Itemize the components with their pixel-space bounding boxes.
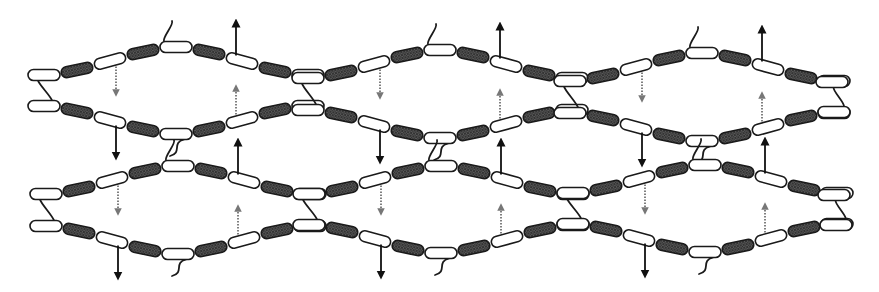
row-2-cell-2-top-chain-segment-white	[358, 170, 392, 189]
row-1-cell-3-top-chain-segment-dark	[718, 49, 752, 66]
row-1-cell-3-bottom-chain-segment-white	[619, 117, 653, 136]
row-1-cell-3-bottom-chain-segment-white	[554, 108, 586, 119]
row-1-cell-3-top-chain-segment-dark	[784, 67, 818, 84]
row-2-end-top-segment-white	[818, 190, 850, 201]
row-2-cell-3-top-chain-segment-dark	[655, 161, 689, 178]
row-1-cell-1-top-chain-segment-white	[160, 42, 192, 53]
row-2-cell-1-top-chain-segment-white	[227, 170, 261, 189]
row-1-cell-3-bottom-chain-segment-white	[686, 136, 718, 147]
row-2-cell-3-top-chain-segment-white	[557, 188, 589, 199]
lattice-diagram	[0, 0, 879, 292]
row-1-cell-3-top-chain-segment-white	[619, 57, 653, 76]
top-tail-icon	[428, 24, 436, 45]
row-1-cell-3-bottom-chain-segment-dark	[784, 109, 818, 126]
row-2-cell-1-bottom-chain-segment-dark	[128, 240, 162, 257]
row-2-cell-2-top-chain-segment-dark	[523, 180, 557, 197]
row-1-cell-3-top-chain-segment-dark	[652, 49, 686, 66]
row-1-cell-1-bottom-chain-segment-dark	[192, 120, 226, 137]
end-connector-tail-icon	[836, 201, 846, 220]
row-1-end-top-segment-white	[816, 77, 848, 88]
row-2-cell-2-bottom-chain-segment-white	[490, 229, 524, 248]
bottom-tail-icon	[172, 260, 186, 277]
row-2-cell-3-bottom-chain-segment-white	[689, 247, 721, 258]
row-2-cell-1-top-chain-segment-dark	[260, 180, 294, 197]
row-2-cell-2-top-chain-segment-dark	[391, 162, 425, 179]
row-1-cell-2-top-chain-segment-dark	[390, 46, 424, 63]
row-2-cell-1-bottom-chain-segment-dark	[62, 222, 96, 239]
row-2-cell-1-bottom-chain-segment-white	[30, 221, 62, 232]
row-1-cell-2-top-chain-segment-white	[292, 73, 324, 84]
row-1-cell-2-bottom-chain-segment-white	[424, 133, 456, 144]
row-2-cell-1-top-chain-segment-dark	[194, 162, 228, 179]
row-1-cell-1-bottom-chain-segment-white	[93, 110, 127, 129]
connector-tail-icon	[38, 81, 52, 101]
row-2-cell-1-bottom-chain-segment-dark	[260, 222, 294, 239]
row-2-cell-3-top-chain-segment-white	[754, 169, 788, 188]
row-2-cell-2-bottom-chain-segment-white	[425, 248, 457, 259]
top-tail-icon	[164, 21, 172, 42]
row-2-cell-3-bottom-chain-segment-white	[754, 228, 788, 247]
connector-tail-icon	[303, 200, 317, 220]
connector-tail-icon	[40, 200, 54, 221]
row-1-cell-1-top-chain-segment-dark	[126, 43, 160, 60]
row-2-cell-3-top-chain-segment-dark	[787, 179, 821, 196]
row-2-cell-3-top-chain-segment-dark	[721, 161, 755, 178]
row-2-cell-3-top-chain-segment-white	[689, 160, 721, 171]
row-2-cell-3-bottom-chain-segment-dark	[787, 220, 821, 237]
row-1-cell-3-top-chain-segment-white	[751, 57, 785, 76]
row-2-cell-1-top-chain-segment-white	[162, 161, 194, 172]
row-2-cell-1-bottom-chain-segment-white	[95, 230, 129, 249]
row-1-cell-1-top-chain-segment-dark	[192, 43, 226, 60]
row-1-cell-2-bottom-chain-segment-dark	[456, 124, 490, 141]
row-1-cell-2-bottom-chain-segment-dark	[522, 106, 556, 123]
row-2-cell-2-bottom-chain-segment-dark	[457, 239, 491, 256]
row-1-cell-1-top-chain-segment-white	[93, 51, 127, 70]
row-1-cell-3-bottom-chain-segment-dark	[652, 127, 686, 144]
top-tail-icon	[690, 27, 698, 48]
row-2-cell-3-bottom-chain-segment-dark	[655, 238, 689, 255]
row-2-cell-3-bottom-chain-segment-dark	[589, 220, 623, 237]
row-1-cell-2-top-chain-segment-dark	[324, 64, 358, 81]
row-2-cell-3-bottom-chain-segment-white	[622, 228, 656, 247]
row-2-cell-1-bottom-chain-segment-dark	[194, 240, 228, 257]
row-1-cell-2-top-chain-segment-white	[489, 54, 523, 73]
row-1-cell-3-top-chain-segment-white	[554, 76, 586, 87]
row-2-cell-2-top-chain-segment-white	[490, 170, 524, 189]
row-2-cell-3-top-chain-segment-dark	[589, 179, 623, 196]
row-2-cell-2-bottom-chain-segment-dark	[325, 221, 359, 238]
bottom-tail-icon	[435, 259, 449, 276]
row-1-end-bottom-segment-white	[818, 107, 850, 118]
row-2-end-bottom-segment-white	[820, 220, 852, 231]
row-1-cell-2-top-chain-segment-white	[424, 45, 456, 56]
row-2-cell-3-bottom-chain-segment-white	[557, 219, 589, 230]
row-2-cell-2-top-chain-segment-dark	[457, 162, 491, 179]
row-2-cell-1-top-chain-segment-dark	[62, 180, 96, 197]
row-2-cell-1-top-chain-segment-dark	[128, 162, 162, 179]
connector-tail-icon	[567, 199, 581, 219]
row-1-cell-1-bottom-chain-segment-white	[28, 101, 60, 112]
row-1-cell-1-bottom-chain-segment-dark	[258, 102, 292, 119]
row-2-cell-3-top-chain-segment-white	[622, 169, 656, 188]
row-1-cell-3-top-chain-segment-dark	[586, 67, 620, 84]
row-2-cell-1-top-chain-segment-white	[95, 170, 129, 189]
row-1-cell-3-bottom-chain-segment-white	[751, 117, 785, 136]
row-1-cell-2-bottom-chain-segment-white	[489, 114, 523, 133]
row-1-cell-3-bottom-chain-segment-dark	[586, 109, 620, 126]
row-2-cell-2-bottom-chain-segment-dark	[523, 221, 557, 238]
row-1-cell-2-bottom-chain-segment-white	[292, 105, 324, 116]
row-1-cell-2-top-chain-segment-dark	[522, 64, 556, 81]
row-2-cell-2-bottom-chain-segment-white	[358, 229, 392, 248]
top-tail-icon	[166, 140, 174, 161]
row-1-cell-1-top-chain-segment-dark	[60, 61, 94, 78]
row-1-cell-2-bottom-chain-segment-white	[357, 114, 391, 133]
row-2-cell-2-bottom-chain-segment-white	[293, 220, 325, 231]
row-1-cell-2-bottom-chain-segment-dark	[390, 124, 424, 141]
row-1-cell-2-bottom-chain-segment-dark	[324, 106, 358, 123]
row-1-cell-3-bottom-chain-segment-dark	[718, 127, 752, 144]
row-1-cell-1-top-chain-segment-white	[28, 70, 60, 81]
row-1-cell-2-top-chain-segment-dark	[456, 46, 490, 63]
row-2-cell-2-bottom-chain-segment-dark	[391, 239, 425, 256]
row-2-cell-1-bottom-chain-segment-white	[162, 249, 194, 260]
lattice-group	[28, 21, 853, 276]
end-connector-tail-icon	[834, 88, 844, 107]
